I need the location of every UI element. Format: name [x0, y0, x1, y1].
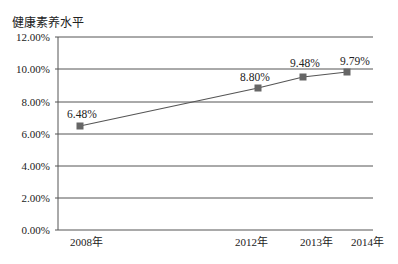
data-label: 8.80%: [240, 71, 270, 83]
y-tick: 12.00%: [16, 31, 50, 43]
line-chart: 12.00% 10.00% 8.00% 6.00% 4.00% 2.00% 0.…: [0, 0, 398, 264]
data-label: 9.79%: [340, 55, 370, 67]
x-tick-labels: 2008年 2012年 2013年 2014年: [70, 235, 384, 248]
y-tick: 10.00%: [16, 63, 50, 75]
x-tick: 2008年: [70, 235, 103, 248]
data-point-marker: [77, 123, 84, 130]
x-tick: 2012年: [235, 235, 268, 248]
data-point-marker: [300, 74, 307, 81]
series-markers: [77, 69, 351, 130]
x-tick: 2014年: [351, 235, 384, 248]
y-tick: 6.00%: [22, 128, 50, 140]
y-tick-labels: 12.00% 10.00% 8.00% 6.00% 4.00% 2.00% 0.…: [16, 31, 50, 236]
gridlines: [55, 37, 373, 230]
data-labels: 6.48% 8.80% 9.48% 9.79%: [67, 55, 370, 120]
x-tick: 2013年: [300, 235, 333, 248]
y-tick: 2.00%: [22, 192, 50, 204]
data-label: 9.48%: [290, 57, 320, 69]
series-line: [80, 72, 347, 126]
data-point-marker: [344, 69, 351, 76]
data-point-marker: [255, 85, 262, 92]
y-tick: 0.00%: [22, 224, 50, 236]
y-tick: 8.00%: [22, 96, 50, 108]
data-label: 6.48%: [67, 108, 97, 120]
y-tick: 4.00%: [22, 160, 50, 172]
